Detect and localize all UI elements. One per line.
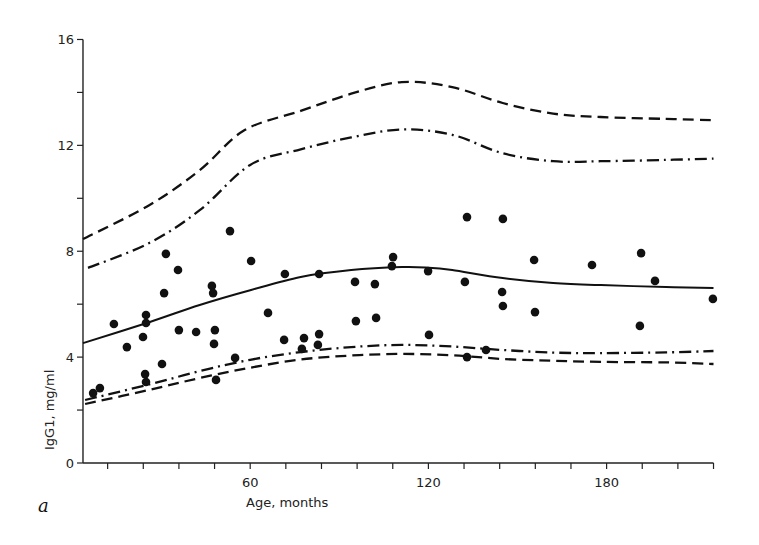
data-point [212,376,221,385]
data-point [141,370,150,379]
x-tick-label: 180 [594,475,619,490]
data-point [651,277,660,286]
data-point [314,341,323,350]
data-point [588,261,597,270]
data-point [315,270,324,279]
data-point [499,302,508,311]
data-point [174,266,183,275]
data-point [226,227,235,236]
data-point [499,215,508,224]
data-point [142,311,151,320]
data-point [371,280,380,289]
data-point [162,250,171,259]
data-point [210,340,219,349]
data-point [139,333,148,342]
data-point [96,384,105,393]
data-point [482,346,491,355]
data-point [123,343,132,352]
data-point [142,319,151,328]
data-point [372,314,381,323]
data-point [142,378,151,387]
curve-lower-inner [85,345,713,400]
x-axis-title: Age, months [246,495,329,510]
y-tick-label: 4 [66,350,74,365]
curve-upper-inner [88,129,714,267]
data-point [425,331,434,340]
x-tick-label: 60 [242,475,259,490]
data-point [637,249,646,258]
data-point [298,345,307,354]
data-point [208,282,217,291]
data-point [531,308,540,317]
data-point [264,309,273,318]
data-point [175,326,184,335]
data-point [461,278,470,287]
data-point [424,267,433,276]
data-point [709,295,718,304]
data-point [231,354,240,363]
data-point [463,353,472,362]
data-points [89,213,717,398]
panel-label: a [38,495,49,516]
x-tick-label: 120 [416,475,441,490]
data-point [351,278,360,287]
data-point [192,328,201,337]
y-axis-title: IgG1, mg/ml [42,370,57,450]
y-tick-label: 12 [57,138,74,153]
y-tick-label: 0 [66,456,74,471]
data-point [389,253,398,262]
axes: 048121660120180 [57,32,713,490]
data-point [160,289,169,298]
y-tick-label: 8 [66,244,74,259]
data-point [315,330,324,339]
data-point [636,322,645,331]
data-point [352,317,361,326]
y-tick-label: 16 [57,32,74,47]
data-point [211,326,220,335]
data-point [158,360,167,369]
igg1-age-chart: 048121660120180 Age, months IgG1, mg/ml … [0,0,759,545]
data-point [388,262,397,271]
data-point [247,257,256,266]
reference-curves [83,82,714,404]
data-point [280,336,289,345]
data-point [530,256,539,265]
data-point [209,289,218,298]
data-point [281,270,290,279]
curve-lower-outer [85,354,713,404]
data-point [300,334,309,343]
curve-upper-outer [83,82,714,239]
data-point [463,213,472,222]
data-point [110,320,119,329]
data-point [498,288,507,297]
